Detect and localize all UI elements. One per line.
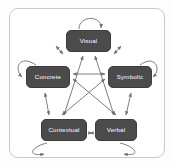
node-symbolic-label: Symbolic [117,74,143,80]
self-loop-visual [79,18,101,29]
diagram-figure: Visual Concrete Symbolic Contextual Verb… [0,0,174,167]
node-symbolic[interactable]: Symbolic [108,66,152,88]
edge-visual-concrete [56,46,63,54]
edge-visual-symbolic [114,46,121,54]
node-contextual[interactable]: Contextual [41,119,87,141]
self-loop-contextual [33,143,47,155]
node-verbal-label: Verbal [107,127,125,133]
edge-concrete-contextual [45,93,49,115]
node-contextual-label: Contextual [48,127,79,133]
node-visual-label: Visual [80,38,98,44]
node-concrete-label: Concrete [35,74,61,80]
node-concrete[interactable]: Concrete [26,66,70,88]
node-visual[interactable]: Visual [66,30,111,52]
self-loop-verbal [120,143,135,155]
node-verbal[interactable]: Verbal [95,119,137,141]
edge-symbolic-verbal [126,93,131,115]
